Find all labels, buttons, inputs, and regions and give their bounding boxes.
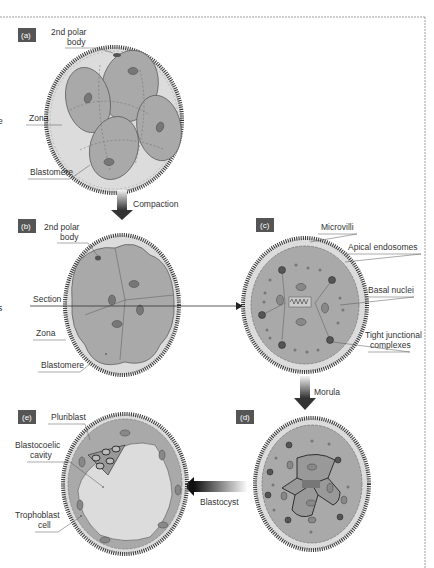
svg-text:Microvilli: Microvilli [321, 222, 354, 232]
panel-c: (c) Microvilli Apical endosomes Basal nu… [243, 218, 422, 372]
svg-text:Compaction: Compaction [133, 199, 179, 209]
svg-text:Apical endosomes: Apical endosomes [348, 242, 417, 252]
compacted-blastomeres [72, 244, 175, 364]
panel-e: (e) Pluriblast Blastocoelic cavity Troph… [15, 410, 187, 554]
svg-text:(c): (c) [260, 221, 270, 230]
svg-text:Zona: Zona [36, 328, 56, 338]
nucleus [109, 295, 116, 305]
svg-text:2nd polar: 2nd polar [44, 222, 80, 232]
svg-text:cavity: cavity [30, 450, 52, 460]
svg-text:Blastomere: Blastomere [30, 167, 73, 177]
nucleus [129, 281, 139, 288]
svg-text:Trophoblast: Trophoblast [15, 510, 60, 520]
nucleus [137, 305, 144, 315]
embryo-development-figure: e s (a) 2nd polar body Zona Blastomere C… [0, 0, 434, 568]
svg-text:Blastomere: Blastomere [41, 360, 84, 370]
svg-text:(d): (d) [240, 413, 250, 422]
morula-arrow: Morula [294, 376, 340, 410]
svg-text:Morula: Morula [314, 387, 340, 397]
svg-text:Tight junctional: Tight junctional [365, 330, 422, 340]
svg-text:body: body [67, 37, 86, 47]
svg-text:Blastocoelic: Blastocoelic [15, 440, 61, 450]
svg-text:Section: Section [33, 294, 62, 304]
svg-text:(b): (b) [21, 222, 31, 231]
panel-b: (b) 2nd polar body Section Zona Blastome… [18, 219, 179, 375]
nucleus [104, 159, 114, 166]
svg-text:Blastocyst: Blastocyst [200, 497, 239, 507]
svg-text:complexes: complexes [370, 340, 411, 350]
compaction-arrow: Compaction [111, 190, 179, 220]
edge-fragment: e [0, 116, 3, 126]
svg-text:cell: cell [38, 520, 51, 530]
svg-text:(a): (a) [21, 31, 31, 40]
blastocyst-arrow: Blastocyst [184, 477, 248, 507]
svg-text:Zona: Zona [29, 113, 49, 123]
svg-text:2nd polar: 2nd polar [51, 27, 87, 37]
svg-text:Basal nuclei: Basal nuclei [368, 285, 414, 295]
svg-text:(e): (e) [22, 413, 32, 422]
edge-fragment: s [0, 303, 2, 313]
polar-body [95, 256, 101, 261]
svg-text:body: body [60, 232, 79, 242]
nucleus [112, 321, 122, 328]
nucleus [128, 68, 138, 75]
polar-body [113, 53, 121, 57]
panel-a: (a) 2nd polar body Zona Blastomere [18, 27, 186, 193]
svg-text:Pluriblast: Pluriblast [51, 412, 87, 422]
panel-d: (d) [236, 410, 369, 550]
